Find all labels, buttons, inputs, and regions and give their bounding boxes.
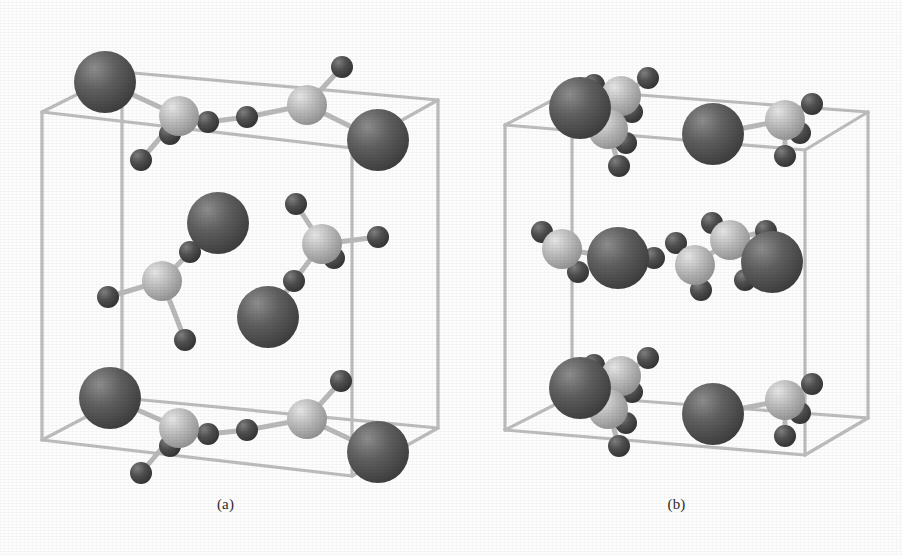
medium-light-sphere bbox=[765, 380, 805, 420]
medium-light-sphere bbox=[287, 85, 327, 125]
panel-b-label: (b) bbox=[451, 496, 902, 513]
medium-light-sphere bbox=[675, 245, 715, 285]
large-dark-sphere bbox=[587, 227, 649, 289]
cell-edge bbox=[505, 125, 805, 150]
large-dark-sphere bbox=[682, 383, 744, 445]
panel-a: (a) bbox=[0, 0, 451, 555]
figure-container: (a) bbox=[0, 0, 902, 555]
small-dark-sphere bbox=[236, 106, 258, 128]
small-dark-sphere bbox=[130, 462, 152, 484]
small-dark-sphere bbox=[608, 155, 630, 177]
medium-light-sphere bbox=[159, 408, 199, 448]
large-dark-sphere bbox=[549, 357, 611, 419]
panel-b: (b) bbox=[451, 0, 902, 555]
large-dark-sphere bbox=[79, 367, 141, 429]
medium-light-sphere bbox=[302, 224, 342, 264]
small-dark-sphere bbox=[197, 423, 219, 445]
small-dark-sphere bbox=[174, 329, 196, 351]
small-dark-sphere bbox=[637, 347, 659, 369]
small-dark-sphere bbox=[330, 370, 352, 392]
small-dark-sphere bbox=[130, 149, 152, 171]
atom-layer-b bbox=[531, 67, 823, 457]
cell-edge bbox=[122, 72, 438, 100]
medium-light-sphere bbox=[142, 261, 182, 301]
large-dark-sphere bbox=[74, 51, 136, 113]
small-dark-sphere bbox=[97, 286, 119, 308]
small-dark-sphere bbox=[236, 419, 258, 441]
panel-a-canvas bbox=[0, 0, 451, 555]
cell-edge bbox=[805, 418, 868, 455]
small-dark-sphere bbox=[637, 67, 659, 89]
panel-b-canvas bbox=[451, 0, 902, 555]
small-dark-sphere bbox=[608, 435, 630, 457]
small-dark-sphere bbox=[774, 145, 796, 167]
cell-edge bbox=[805, 112, 868, 150]
cell-edge bbox=[42, 440, 352, 476]
large-dark-sphere bbox=[347, 109, 409, 171]
large-dark-sphere bbox=[237, 286, 299, 348]
medium-light-sphere bbox=[542, 229, 582, 269]
small-dark-sphere bbox=[285, 193, 307, 215]
large-dark-sphere bbox=[682, 103, 744, 165]
large-dark-sphere bbox=[549, 77, 611, 139]
large-dark-sphere bbox=[741, 231, 803, 293]
small-dark-sphere bbox=[283, 270, 305, 292]
large-dark-sphere bbox=[347, 421, 409, 483]
cell-edge bbox=[505, 430, 805, 455]
small-dark-sphere bbox=[801, 93, 823, 115]
small-dark-sphere bbox=[197, 111, 219, 133]
medium-light-sphere bbox=[159, 96, 199, 136]
small-dark-sphere bbox=[367, 226, 389, 248]
small-dark-sphere bbox=[331, 56, 353, 78]
small-dark-sphere bbox=[774, 425, 796, 447]
panel-a-label: (a) bbox=[0, 496, 451, 513]
large-dark-sphere bbox=[187, 192, 249, 254]
small-dark-sphere bbox=[801, 373, 823, 395]
medium-light-sphere bbox=[287, 399, 327, 439]
medium-light-sphere bbox=[765, 100, 805, 140]
